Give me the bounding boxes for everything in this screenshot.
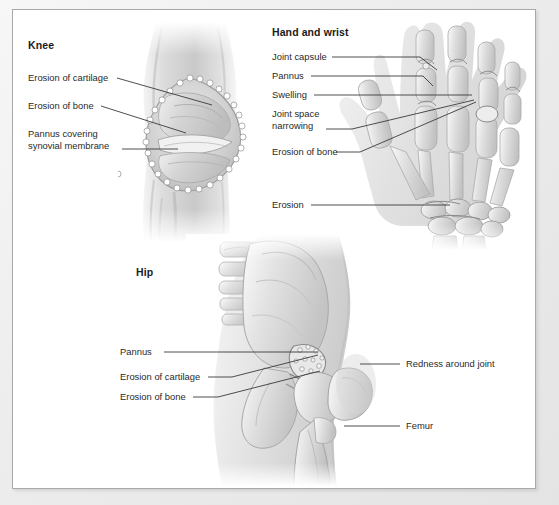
label-femur: Femur [406, 420, 433, 432]
label-swelling: Swelling [272, 89, 307, 101]
label-joint-capsule: Joint capsule [272, 51, 327, 63]
label-erosion-wrist: Erosion [272, 199, 304, 211]
label-redness-around-joint: Redness around joint [406, 358, 495, 370]
label-erosion-of-bone-hand: Erosion of bone [272, 146, 338, 158]
label-erosion-of-cartilage: Erosion of cartilage [28, 72, 108, 84]
label-pannus-covering-synovial-membrane: Pannus covering synovial membrane [28, 128, 109, 151]
hand-wrist-skeleton-illustration [330, 18, 530, 250]
panel-heading-hand-and-wrist: Hand and wrist [272, 26, 349, 38]
label-pannus-hip: Pannus [120, 346, 152, 358]
label-joint-space-narrowing: Joint space narrowing [272, 108, 319, 131]
label-pannus: Pannus [272, 70, 304, 82]
panel-heading-knee: Knee [28, 39, 54, 51]
hip-joint-illustration [186, 234, 386, 486]
label-erosion-of-cartilage-hip: Erosion of cartilage [120, 371, 200, 383]
panel-heading-hip: Hip [136, 266, 153, 278]
knee-joint-illustration [118, 22, 266, 242]
label-erosion-of-bone: Erosion of bone [28, 100, 94, 112]
label-erosion-of-bone-hip: Erosion of bone [120, 391, 186, 403]
figure-root: Knee Erosion of cartilage Erosion of bon… [0, 0, 559, 505]
